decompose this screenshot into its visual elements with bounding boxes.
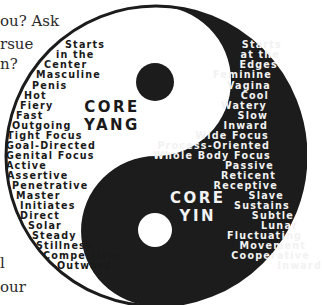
page-text-fragment: our — [0, 280, 26, 295]
core-yang-line2: YANG — [84, 118, 140, 133]
page-text-fragment: ou? Ask — [0, 14, 59, 29]
yin-attribute: Feminine — [213, 70, 272, 80]
yang-attribute: Outward — [57, 261, 112, 271]
yang-attribute: Masculine — [36, 70, 101, 80]
core-yang-title: CORE YANG — [84, 100, 140, 133]
yin-attribute: Inward — [277, 261, 322, 271]
page-text-fragment: rsue — [0, 37, 33, 52]
core-yin-title: CORE YIN — [170, 191, 226, 224]
yin-eye-dot — [138, 213, 172, 247]
page-text-fragment: n? — [0, 57, 18, 72]
yang-eye-dot — [136, 63, 174, 101]
core-yin-line1: CORE — [170, 191, 226, 206]
page-text-fragment: l — [0, 256, 5, 271]
core-yang-line1: CORE — [84, 100, 140, 115]
core-yin-line2: YIN — [170, 209, 226, 224]
